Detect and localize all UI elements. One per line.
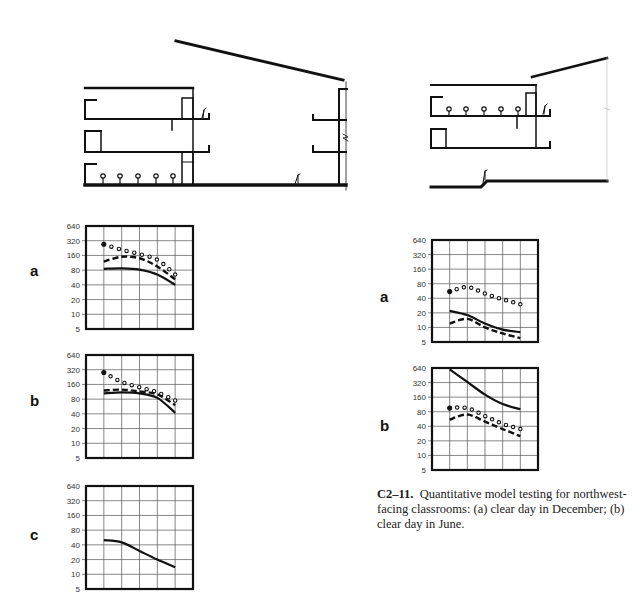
y-tick-label: 20 [417,309,426,318]
y-tick-label: 160 [67,511,81,520]
panel-label-left-a: a [30,262,38,279]
chart-left-a: 640320160804020105 [56,218,197,337]
chart-right-a: 640320160804020105 [402,232,542,350]
chart-left-c: 640320160804020105 [56,478,197,597]
panel-label-left-c: c [30,526,38,543]
y-tick-label: 640 [67,351,81,360]
panel-label-right-b: b [380,417,389,434]
y-tick-label: 40 [417,294,426,303]
grid [428,368,538,470]
y-tick-label: 20 [417,437,426,446]
y-tick-label: 320 [67,497,81,506]
caption-id: C2–11. [377,487,413,501]
luminaire-markers [447,107,520,116]
section-drawing-left [85,41,348,190]
grid [428,240,538,342]
figure-caption: C2–11. Quantitative model testing for no… [377,487,627,532]
chart-left-b: 640320160804020105 [56,347,197,466]
y-tick-label: 160 [413,393,427,402]
y-tick-label: 20 [71,556,80,565]
y-tick-label: 320 [67,237,81,246]
y-tick-label: 5 [422,466,427,475]
building-section-drawings [0,0,633,210]
panel-label-right-a: a [380,288,388,305]
y-tick-label: 5 [76,325,81,334]
y-tick-label: 10 [71,310,80,319]
y-tick-label: 10 [71,439,80,448]
y-tick-label: 40 [71,541,80,550]
panel-label-left-b: b [30,392,39,409]
grid [82,355,193,458]
y-tick-label: 640 [67,222,81,231]
y-tick-label: 40 [71,281,80,290]
y-tick-label: 320 [413,251,427,260]
y-tick-label: 640 [413,364,427,373]
caption-text: Quantitative model testing for northwest… [377,487,627,531]
y-tick-label: 5 [76,585,81,594]
y-tick-label: 5 [422,338,427,347]
chart-right-b: 640320160804020105 [402,360,542,478]
y-tick-label: 320 [67,366,81,375]
y-tick-label: 80 [417,408,426,417]
y-tick-label: 640 [67,482,81,491]
y-tick-label: 640 [413,236,427,245]
y-tick-label: 10 [417,451,426,460]
y-tick-label: 40 [417,422,426,431]
y-tick-label: 20 [71,425,80,434]
y-tick-label: 320 [413,379,427,388]
y-tick-label: 160 [413,265,427,274]
y-tick-label: 20 [71,296,80,305]
y-tick-label: 40 [71,410,80,419]
section-drawing-right [431,58,610,187]
y-tick-label: 80 [417,280,426,289]
y-tick-label: 80 [71,395,80,404]
y-tick-label: 80 [71,526,80,535]
y-tick-label: 80 [71,266,80,275]
y-tick-label: 160 [67,380,81,389]
y-tick-label: 10 [417,323,426,332]
y-tick-label: 160 [67,251,81,260]
y-tick-label: 10 [71,570,80,579]
grid [82,486,193,589]
grid [82,226,193,329]
y-tick-label: 5 [76,454,81,463]
